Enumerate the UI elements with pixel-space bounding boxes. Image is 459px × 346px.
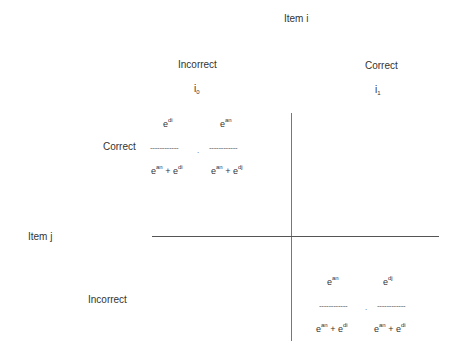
column-correct-label: Correct xyxy=(365,60,398,71)
item-i-label: Item i xyxy=(284,13,308,24)
top-left-multiply-dot: . xyxy=(197,146,199,155)
vertical-divider xyxy=(291,113,292,341)
symbol-subscript: 1 xyxy=(377,90,380,96)
symbol-subscript: 0 xyxy=(196,89,199,95)
horizontal-divider xyxy=(152,236,439,237)
bottom-right-denominator-2: ean + edi xyxy=(374,324,406,334)
bottom-right-fraction-bar-1: ------------ xyxy=(319,301,347,310)
top-left-numerator-1: edi xyxy=(163,119,173,129)
bottom-right-multiply-dot: . xyxy=(365,303,367,312)
top-left-fraction-bar-2: ------------ xyxy=(209,143,237,152)
column-incorrect-label: Incorrect xyxy=(178,59,217,70)
top-left-denominator-2: ean + edj xyxy=(211,166,243,176)
row-incorrect-label: Incorrect xyxy=(88,294,127,305)
row-correct-label: Correct xyxy=(103,141,136,152)
top-left-numerator-2: ean xyxy=(220,119,232,129)
bottom-right-numerator-2: edj xyxy=(383,277,393,287)
column-correct-symbol: i1 xyxy=(375,84,381,96)
bottom-right-denominator-1: ean + edi xyxy=(316,324,348,334)
bottom-right-numerator-1: ean xyxy=(327,277,339,287)
item-j-label: Item j xyxy=(28,231,52,242)
column-incorrect-symbol: i0 xyxy=(194,83,200,95)
top-left-fraction-bar-1: ------------ xyxy=(150,143,178,152)
bottom-right-fraction-bar-2: ------------ xyxy=(377,301,405,310)
top-left-denominator-1: ean + edi xyxy=(151,166,183,176)
